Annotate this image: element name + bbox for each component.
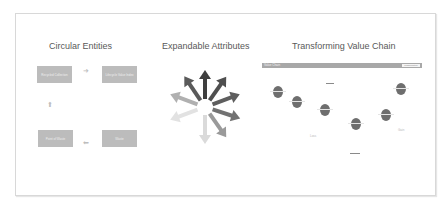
bottom-marker <box>350 153 360 154</box>
value-node-1 <box>273 86 283 98</box>
top-marker <box>326 83 334 84</box>
radial-arrows-diagram <box>165 64 245 150</box>
side-label-gain: Gain <box>398 129 404 132</box>
value-chain-diagram: Value Chain Transformation Loss Gain <box>262 63 423 158</box>
value-node-3 <box>320 104 330 116</box>
arrow-left-down-icon <box>168 104 199 125</box>
entity-box-lifecycle-value: Lifecycle Value Index <box>102 66 137 83</box>
expandable-attributes-title: Expandable Attributes <box>162 41 250 51</box>
arrow-down-icon <box>199 115 211 144</box>
value-node-5 <box>381 109 391 121</box>
value-node-2 <box>292 96 302 108</box>
value-node-4 <box>351 118 361 130</box>
value-chain-title: Transforming Value Chain <box>292 41 396 51</box>
header-bar-badge: Transformation <box>402 64 420 67</box>
header-bar-label: Value Chain <box>264 63 280 68</box>
value-node-6 <box>396 83 406 95</box>
arrow-right-icon: ➜ <box>83 67 89 74</box>
arrow-up-icon: ⬆ <box>47 101 53 108</box>
entity-box-recycled-collection: Recycled Collection <box>37 66 72 83</box>
value-chain-header-bar: Value Chain Transformation <box>262 63 422 68</box>
entity-box-point-of-waste: Point of Waste <box>38 130 73 147</box>
entity-box-waste: Waste <box>102 130 137 147</box>
side-label-loss: Loss <box>310 135 316 138</box>
arrow-up-icon <box>199 70 211 99</box>
circular-entities-title: Circular Entities <box>49 41 112 51</box>
arrow-left-icon: ⬅ <box>83 139 89 146</box>
